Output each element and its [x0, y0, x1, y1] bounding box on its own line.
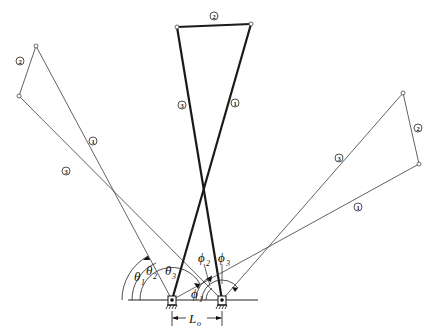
ground-pivot-b-icon — [216, 296, 227, 309]
svg-text:1: 1 — [356, 204, 359, 211]
center-link-2 — [177, 24, 251, 27]
right-label-2: 2 — [414, 124, 422, 132]
svg-text:2: 2 — [212, 13, 215, 20]
svg-text:3: 3 — [171, 272, 176, 281]
svg-text:2: 2 — [153, 272, 157, 281]
linkage-diagram: 2 1 3 2 3 1 2 3 1 — [0, 0, 432, 335]
right-label-3: 3 — [335, 154, 343, 162]
center-label-3: 3 — [178, 101, 186, 109]
svg-text:2: 2 — [416, 125, 419, 132]
svg-text:θ: θ — [165, 263, 172, 278]
svg-text:ϕ: ϕ — [218, 250, 225, 265]
svg-text:2: 2 — [18, 58, 21, 65]
center-position: 2 3 1 — [172, 12, 253, 300]
svg-text:3: 3 — [225, 259, 230, 268]
svg-text:2: 2 — [206, 259, 210, 268]
svg-text:1: 1 — [141, 278, 145, 287]
center-joint-left — [175, 25, 179, 29]
svg-text:1: 1 — [199, 295, 203, 304]
svg-text:o: o — [197, 319, 201, 328]
dimension-lo: L o — [172, 311, 222, 328]
svg-text:θ: θ — [134, 269, 141, 284]
phi3-label: ϕ 3 — [218, 250, 230, 268]
left-link-1 — [36, 46, 172, 300]
left-label-2: 2 — [16, 57, 24, 65]
svg-text:1: 1 — [233, 100, 236, 107]
right-link-3 — [222, 93, 403, 300]
left-position: 2 1 3 — [16, 44, 222, 300]
right-joint-top — [401, 91, 405, 95]
svg-text:1: 1 — [91, 138, 94, 145]
phi3-arrow-icon — [232, 287, 238, 292]
right-position: 2 3 1 — [172, 91, 422, 300]
phi2-arc — [206, 288, 212, 300]
left-label-1: 1 — [89, 137, 97, 145]
left-label-3: 3 — [62, 167, 70, 175]
right-joint-bottom — [417, 162, 421, 166]
svg-text:ϕ: ϕ — [198, 250, 205, 265]
left-joint-top — [34, 44, 38, 48]
theta3-label: θ 3 — [165, 263, 176, 281]
left-joint-bottom — [17, 94, 21, 98]
svg-text:θ: θ — [146, 263, 153, 278]
center-label-2: 2 — [210, 12, 218, 20]
ground-pivot-a-icon — [166, 296, 177, 309]
center-joint-right — [249, 22, 253, 26]
left-link-2 — [19, 46, 36, 96]
svg-text:L: L — [188, 311, 196, 326]
right-label-1: 1 — [354, 203, 362, 211]
phi1-label: ϕ 1 — [191, 286, 203, 304]
left-link-3 — [19, 96, 222, 300]
svg-text:ϕ: ϕ — [191, 286, 198, 301]
center-label-1: 1 — [231, 99, 239, 107]
